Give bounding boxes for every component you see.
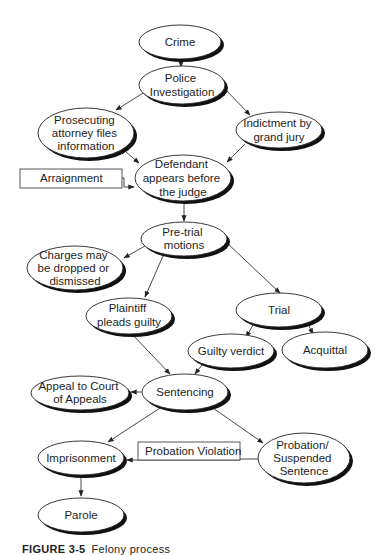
node-plaintiff-pleads-guilty: Plaintiff pleads guilty	[86, 298, 175, 337]
node-parole-line-1: Parole	[64, 509, 97, 521]
svg-text:Guilty verdict: Guilty verdict	[198, 345, 265, 357]
edge-pretrial-trial	[226, 242, 280, 293]
svg-text:Parole: Parole	[64, 509, 97, 521]
node-pretrial-motions: Pre-trial motions	[141, 222, 230, 259]
svg-text:Probation/ Suspended: Probation/ Suspended Sentence	[273, 439, 334, 477]
svg-text:Pre-trial motions: Pre-trial motions	[162, 226, 205, 251]
svg-text:Trial: Trial	[268, 304, 290, 316]
edge-arraignment-defendant	[122, 178, 134, 187]
node-prosecuting-line-3: information	[58, 140, 115, 152]
node-charges-line-1: Charges may	[39, 249, 108, 261]
figure-caption-label: FIGURE 3-5	[22, 543, 86, 555]
node-police-line-2: Investigation	[150, 86, 215, 98]
svg-text:Sentencing: Sentencing	[156, 386, 214, 398]
node-parole: Parole	[38, 498, 127, 535]
edge-sentencing-imprisonment	[108, 408, 160, 442]
node-charges-line-3: dismissed	[49, 275, 100, 287]
node-indictment: Indictment by grand jury	[236, 112, 325, 151]
node-trial-line-1: Trial	[268, 304, 290, 316]
node-plaintiff-line-2: pleads guilty	[97, 316, 161, 328]
node-defendant-line-2: appears before	[143, 172, 220, 184]
node-sentencing: Sentencing	[142, 374, 231, 413]
node-charges-dropped: Charges may be dropped or dismissed	[27, 246, 126, 293]
node-plaintiff-line-1: Plaintiff	[109, 302, 147, 314]
node-indictment-line-2: grand jury	[253, 131, 304, 143]
figure-caption: FIGURE 3-5Felony process	[22, 543, 170, 555]
node-sentencing-line-1: Sentencing	[156, 386, 214, 398]
label-arraignment: Arraignment	[20, 169, 122, 188]
label-probation-violation: Probation Violation	[138, 442, 241, 460]
edge-prosecuting-defendant	[126, 152, 139, 163]
node-probation-line-2: Suspended	[273, 452, 331, 464]
node-acquittal: Acquittal	[282, 332, 371, 371]
node-defendant-line-1: Defendant	[155, 158, 209, 170]
edge-sentencing-probation	[213, 408, 263, 443]
arraignment-label: Arraignment	[40, 172, 103, 184]
node-defendant-appears: Defendant appears before the judge	[135, 155, 234, 204]
node-imprisonment: Imprisonment	[38, 441, 127, 478]
figure-caption-text: Felony process	[92, 543, 171, 555]
node-probation-suspended: Probation/ Suspended Sentence	[258, 433, 353, 486]
node-probation-line-1: Probation/	[276, 439, 329, 451]
node-crime: Crime	[139, 25, 224, 62]
node-prosecuting-line-2: attorney files	[52, 127, 117, 139]
node-guilty-line-1: Guilty verdict	[198, 345, 265, 357]
edge-plaintiff-sentencing	[131, 333, 170, 374]
node-acquittal-line-1: Acquittal	[303, 344, 347, 356]
svg-text:Acquittal: Acquittal	[303, 344, 347, 356]
edge-indictment-defendant	[227, 144, 245, 162]
node-appeal-line-2: of Appeals	[53, 393, 107, 405]
node-trial: Trial	[236, 293, 325, 330]
edge-pretrial-plaintiff	[145, 256, 163, 297]
svg-text:Crime: Crime	[165, 36, 196, 48]
node-police-investigation: Police Investigation	[139, 66, 228, 107]
svg-text:Prosecuting attorney fil: Prosecuting attorney files information	[52, 114, 120, 152]
node-probation-line-3: Sentence	[280, 465, 329, 477]
node-crime-line-1: Crime	[165, 36, 196, 48]
edge-police-indictment	[225, 89, 250, 115]
node-prosecuting-line-1: Prosecuting	[54, 114, 115, 126]
node-appeal-line-1: Appeal to Court	[38, 380, 119, 392]
node-appeal-court: Appeal to Court of Appeals	[31, 376, 132, 413]
node-prosecuting-attorney: Prosecuting attorney files information	[38, 108, 137, 161]
node-pretrial-line-1: Pre-trial	[162, 226, 202, 238]
node-charges-line-2: be dropped or	[38, 262, 110, 274]
svg-text:Imprisonment: Imprisonment	[46, 452, 116, 464]
node-indictment-line-1: Indictment by	[243, 117, 312, 129]
node-pretrial-line-2: motions	[164, 239, 205, 251]
node-imprisonment-line-1: Imprisonment	[46, 452, 116, 464]
node-defendant-line-3: the judge	[159, 186, 206, 198]
node-police-line-1: Police	[165, 72, 196, 84]
probation-violation-label: Probation Violation	[145, 445, 241, 457]
